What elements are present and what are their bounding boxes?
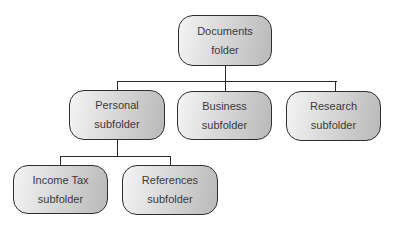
node-subtitle: subfolder — [38, 190, 83, 209]
connector-root-down — [225, 66, 226, 81]
node-documents-folder: Documents folder — [178, 15, 272, 66]
node-subtitle: subfolder — [94, 115, 139, 134]
node-title: Income Tax — [32, 171, 88, 190]
connector-research-up — [335, 81, 336, 91]
node-research-subfolder: Research subfolder — [286, 91, 381, 141]
connector-personal-up — [117, 81, 118, 90]
node-subtitle: folder — [211, 41, 239, 60]
node-subtitle: subfolder — [202, 116, 247, 135]
node-title: Business — [202, 97, 247, 116]
connector-level1-bar — [117, 81, 337, 82]
node-title: References — [142, 171, 198, 190]
node-title: Documents — [197, 22, 253, 41]
connector-personal-down — [117, 140, 118, 157]
connector-business-up — [225, 81, 226, 91]
node-title: Research — [310, 97, 357, 116]
connector-references-up — [170, 156, 171, 165]
node-incometax-subfolder: Income Tax subfolder — [13, 165, 108, 214]
node-subtitle: subfolder — [311, 116, 356, 135]
node-personal-subfolder: Personal subfolder — [69, 90, 165, 140]
connector-level2-bar — [60, 156, 171, 157]
node-title: Personal — [95, 96, 138, 115]
node-subtitle: subfolder — [147, 190, 192, 209]
connector-incometax-up — [60, 156, 61, 165]
node-references-subfolder: References subfolder — [122, 165, 218, 215]
node-business-subfolder: Business subfolder — [177, 91, 272, 140]
